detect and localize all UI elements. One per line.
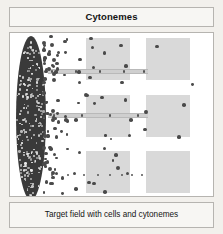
- cell: [177, 135, 181, 139]
- cell: [56, 112, 59, 115]
- cell: [78, 151, 81, 154]
- source-cell: [26, 136, 28, 138]
- cell: [78, 58, 82, 62]
- source-cell: [36, 153, 38, 155]
- source-cell: [27, 105, 29, 107]
- cytoneme-row3-node: [83, 174, 86, 177]
- source-cell: [36, 100, 38, 102]
- cell: [53, 127, 57, 131]
- source-cell: [19, 88, 21, 90]
- source-cell: [21, 124, 23, 126]
- cell: [47, 130, 50, 133]
- source-cell: [22, 76, 24, 78]
- cell: [42, 81, 45, 84]
- source-cell: [33, 134, 35, 136]
- page-title: Cytonemes: [85, 12, 137, 22]
- cell: [55, 172, 58, 175]
- source-cell: [36, 89, 38, 91]
- source-cell: [26, 93, 28, 95]
- cell: [63, 74, 66, 77]
- source-cell: [25, 121, 27, 123]
- cell: [61, 176, 65, 180]
- source-cell: [27, 111, 29, 113]
- cell: [119, 44, 122, 47]
- cell: [55, 62, 58, 65]
- source-cell: [21, 147, 23, 149]
- cell: [128, 134, 131, 137]
- source-cell: [31, 137, 33, 139]
- source-cell: [27, 189, 29, 191]
- cell: [155, 45, 159, 49]
- cell: [46, 134, 49, 137]
- cell: [88, 76, 91, 79]
- source-cell: [30, 78, 32, 80]
- source-cell: [33, 52, 35, 54]
- cell: [74, 187, 78, 191]
- target-field-row3-far: [146, 151, 190, 193]
- cell: [51, 182, 54, 185]
- source-cell: [26, 107, 28, 109]
- cell: [55, 135, 58, 138]
- source-cell: [33, 155, 35, 157]
- source-cell: [22, 95, 24, 97]
- source-cell: [19, 123, 20, 124]
- cytonemes-figure-card: Cytonemes Target field with cells and cy…: [0, 0, 223, 234]
- diagram-panel: [9, 32, 214, 197]
- source-cell: [35, 69, 37, 71]
- source-cell: [29, 46, 31, 48]
- cell: [120, 81, 124, 85]
- source-cell: [29, 53, 31, 55]
- source-cell: [26, 89, 28, 91]
- source-cell: [17, 144, 19, 146]
- cell: [42, 146, 46, 150]
- source-cell: [23, 154, 25, 156]
- source-cell: [38, 172, 40, 174]
- source-cell: [31, 162, 33, 164]
- cell: [56, 99, 59, 102]
- source-cell: [26, 52, 28, 54]
- cell: [57, 120, 60, 123]
- source-cell: [32, 192, 34, 194]
- source-cell: [28, 186, 30, 188]
- source-cell: [19, 75, 21, 77]
- cell: [63, 40, 67, 44]
- source-cell: [40, 116, 42, 118]
- cell: [51, 109, 55, 113]
- source-cell: [36, 157, 38, 159]
- cell: [52, 78, 56, 82]
- source-cell: [19, 113, 21, 115]
- target-field-row1-far: [146, 38, 190, 80]
- source-cell: [39, 157, 41, 159]
- source-cell: [23, 170, 25, 172]
- cytoneme-row3-node: [131, 174, 134, 177]
- source-cell: [40, 133, 42, 135]
- cell: [51, 176, 55, 180]
- cell: [100, 96, 104, 100]
- cell: [103, 190, 107, 194]
- source-cell: [38, 125, 40, 127]
- cell: [66, 148, 69, 151]
- source-cell: [37, 95, 39, 97]
- source-cell: [26, 96, 28, 98]
- source-cell: [18, 93, 20, 95]
- source-cell: [38, 167, 40, 169]
- cell: [91, 46, 94, 49]
- cell: [44, 102, 47, 105]
- cell: [55, 157, 58, 160]
- source-cell: [29, 156, 31, 158]
- source-cell: [29, 123, 31, 125]
- source-cell: [35, 50, 37, 52]
- cell: [77, 102, 80, 105]
- source-cell: [19, 159, 21, 161]
- cell: [47, 67, 51, 71]
- source-cell: [33, 149, 35, 151]
- source-cell: [30, 169, 32, 171]
- source-cell: [17, 95, 19, 97]
- source-cell: [30, 158, 32, 160]
- source-cell: [36, 78, 38, 80]
- source-cell: [34, 114, 36, 116]
- diagram-stage: [10, 33, 213, 196]
- source-cell: [30, 178, 32, 180]
- source-cell: [25, 180, 26, 181]
- cytoneme-row3-node: [141, 174, 144, 177]
